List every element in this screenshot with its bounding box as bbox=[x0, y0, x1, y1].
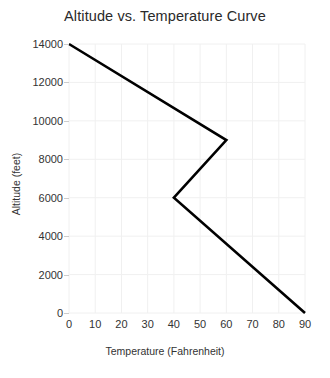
y-axis-tick-mark bbox=[64, 159, 69, 160]
y-axis-tick-mark bbox=[64, 313, 69, 314]
data-series bbox=[69, 44, 305, 313]
gridlines bbox=[69, 44, 305, 313]
x-axis-label: Temperature (Fahrenheit) bbox=[0, 345, 330, 357]
plot-area bbox=[69, 44, 305, 313]
y-axis-tick-mark bbox=[64, 82, 69, 83]
y-axis-tick-mark bbox=[64, 198, 69, 199]
y-axis-tick-label: 14000 bbox=[3, 38, 63, 50]
y-axis-tick-mark bbox=[64, 44, 69, 45]
chart-figure: Altitude vs. Temperature Curve 020004000… bbox=[0, 0, 330, 378]
chart-title: Altitude vs. Temperature Curve bbox=[0, 8, 330, 24]
y-axis-tick-label: 2000 bbox=[3, 269, 63, 281]
x-axis-tick-label: 90 bbox=[285, 318, 325, 330]
series-line bbox=[69, 44, 305, 313]
y-axis-tick-mark bbox=[64, 275, 69, 276]
y-axis-tick-mark bbox=[64, 121, 69, 122]
y-axis-tick-mark bbox=[64, 236, 69, 237]
plot-svg bbox=[69, 44, 305, 313]
y-axis-label: Altitude (feet) bbox=[10, 104, 22, 264]
y-axis-tick-label: 12000 bbox=[3, 76, 63, 88]
